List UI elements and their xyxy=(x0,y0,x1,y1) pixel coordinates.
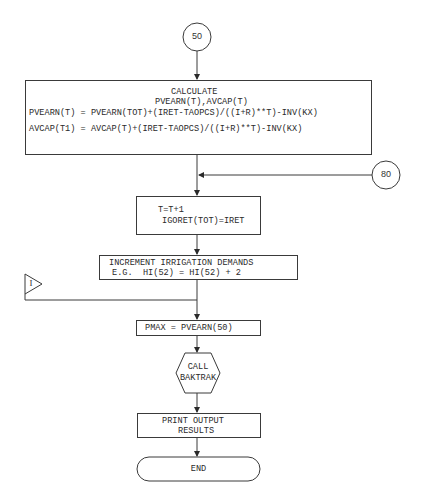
pmax-process-box: PMAX = PVEARN(50) xyxy=(136,320,261,336)
calculate-subtitle: PVEARN(T),AVCAP(T) xyxy=(155,97,248,107)
calculate-process-box: CALCULATE PVEARN(T),AVCAP(T) PVEARN(T) =… xyxy=(25,80,372,155)
call-baktrak-subroutine: CALL xyxy=(176,362,220,372)
connector-50-label[interactable]: 50 xyxy=(183,31,211,41)
increment-t-process-box: T=T+1 IGORET(TOT)=IRET xyxy=(136,196,261,235)
offpage-connector-i-label[interactable]: I xyxy=(26,278,36,288)
print-output-line2: RESULTS xyxy=(178,426,214,436)
calculate-title: CALCULATE xyxy=(171,87,217,97)
print-output-line1: PRINT OUTPUT xyxy=(162,416,224,426)
irrigation-example: E.G. HI(52) = HI(52) + 2 xyxy=(112,268,241,278)
irrigation-title: INCREMENT IRRIGATION DEMANDS xyxy=(109,258,253,268)
t-increment-statement: T=T+1 xyxy=(158,205,184,215)
avcap-formula: AVCAP(T1) = AVCAP(T)+(IRET-TAOPCS)/((I+R… xyxy=(29,124,302,134)
call-baktrak-name: BAKTRAK xyxy=(176,373,220,383)
irrigation-demand-process-box: INCREMENT IRRIGATION DEMANDS E.G. HI(52)… xyxy=(99,255,298,280)
pmax-statement: PMAX = PVEARN(50) xyxy=(145,323,233,333)
end-terminator-label: END xyxy=(137,464,260,474)
print-output-process-box: PRINT OUTPUT RESULTS xyxy=(137,413,261,438)
pvearn-formula: PVEARN(T) = PVEARN(TOT)+(IRET-TAOPCS)/((… xyxy=(29,108,318,118)
connector-80-label[interactable]: 80 xyxy=(372,169,400,179)
igoret-assignment: IGORET(TOT)=IRET xyxy=(162,216,245,226)
